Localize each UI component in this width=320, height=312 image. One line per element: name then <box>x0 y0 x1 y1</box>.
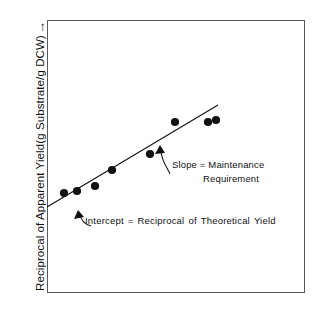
data-point <box>73 187 81 195</box>
data-point <box>204 118 212 126</box>
intercept-word: Reciprocal <box>138 215 189 226</box>
intercept-word: Intercept <box>85 215 128 226</box>
y-axis-arrow-icon: → <box>33 21 48 35</box>
intercept-word: Yield <box>254 215 280 226</box>
slope-callout-arrow-icon <box>155 145 170 174</box>
intercept-word: of <box>188 215 200 226</box>
intercept-word: Theoretical <box>201 215 254 226</box>
data-point <box>60 189 68 197</box>
slope-annotation-line-1: Slope = Maintenance <box>172 159 264 170</box>
y-axis-label-text: Reciprocal of Apparent Yield(g Substrate… <box>34 35 46 291</box>
data-point <box>108 166 116 174</box>
data-point <box>91 182 99 190</box>
plot-drawing-layer <box>47 20 305 293</box>
data-point <box>171 118 179 126</box>
data-point <box>146 150 154 158</box>
data-point <box>212 116 220 124</box>
intercept-annotation: Intercept=ReciprocalofTheoreticalYield <box>85 215 280 226</box>
figure-canvas: Reciprocal of Apparent Yield(g Substrate… <box>0 0 320 312</box>
intercept-word: = <box>128 215 138 226</box>
slope-annotation-line-2: Requirement <box>203 173 259 184</box>
fitted-regression-line <box>47 105 218 207</box>
